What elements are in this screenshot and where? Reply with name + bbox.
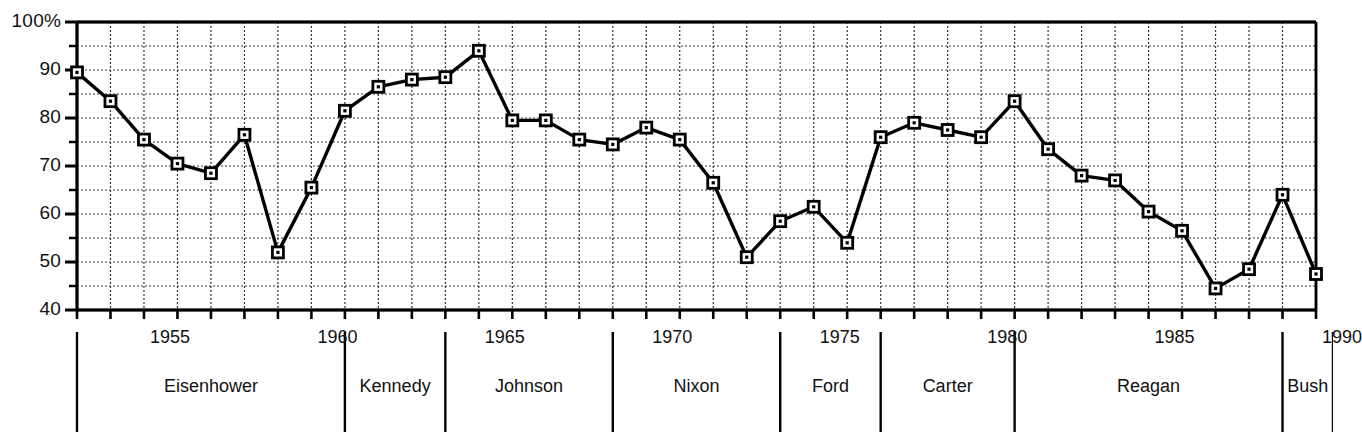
administration-label: Carter: [881, 376, 1015, 397]
data-point-center: [1281, 193, 1284, 196]
data-point-center: [1214, 287, 1217, 290]
administration-label: Nixon: [613, 376, 780, 397]
data-point-center: [243, 133, 246, 136]
y-tick-label: 100%: [0, 10, 61, 32]
administration-label: Kennedy: [345, 376, 445, 397]
y-tick-label: 80: [0, 106, 61, 128]
data-point-center: [276, 251, 279, 254]
data-point-center: [477, 49, 480, 52]
x-tick-label: 1980: [987, 327, 1027, 348]
data-point-center: [745, 256, 748, 259]
administration-label: Johnson: [445, 376, 612, 397]
data-point-center: [1180, 229, 1183, 232]
data-point-center: [1314, 272, 1317, 275]
data-point-center: [1080, 174, 1083, 177]
data-point-center: [812, 205, 815, 208]
y-tick-label: 90: [0, 58, 61, 80]
data-point-center: [645, 126, 648, 129]
data-point-center: [109, 100, 112, 103]
data-point-center: [544, 119, 547, 122]
administration-label: Ford: [780, 376, 880, 397]
y-tick-label: 50: [0, 250, 61, 272]
data-point-center: [1247, 268, 1250, 271]
data-point-center: [611, 143, 614, 146]
data-point-center: [377, 85, 380, 88]
data-point-center: [678, 138, 681, 141]
data-point-center: [310, 186, 313, 189]
data-point-center: [209, 172, 212, 175]
y-tick-label: 60: [0, 202, 61, 224]
administration-label: Reagan: [1015, 376, 1283, 397]
data-point-center: [176, 162, 179, 165]
data-point-center: [75, 71, 78, 74]
administration-label: Eisenhower: [77, 376, 345, 397]
data-point-center: [1013, 100, 1016, 103]
y-tick-label: 70: [0, 154, 61, 176]
administration-label: Bush: [1283, 376, 1333, 397]
x-tick-label: 1975: [820, 327, 860, 348]
y-tick-label: 40: [0, 298, 61, 320]
x-tick-label: 1955: [150, 327, 190, 348]
data-point-center: [1113, 179, 1116, 182]
data-point-center: [1047, 148, 1050, 151]
data-point-center: [578, 138, 581, 141]
data-point-center: [712, 181, 715, 184]
x-tick-label: 1960: [317, 327, 357, 348]
data-point-center: [913, 121, 916, 124]
data-point-center: [879, 136, 882, 139]
data-point-center: [142, 138, 145, 141]
x-tick-label: 1985: [1155, 327, 1195, 348]
data-point-center: [1147, 210, 1150, 213]
data-point-center: [846, 241, 849, 244]
data-point-center: [980, 136, 983, 139]
data-point-center: [410, 78, 413, 81]
x-tick-label: 1990: [1322, 327, 1362, 348]
x-tick-label: 1970: [652, 327, 692, 348]
data-point-center: [444, 76, 447, 79]
data-point-center: [511, 119, 514, 122]
data-point-center: [779, 220, 782, 223]
data-point-center: [946, 128, 949, 131]
data-point-center: [343, 109, 346, 112]
x-tick-label: 1965: [485, 327, 525, 348]
